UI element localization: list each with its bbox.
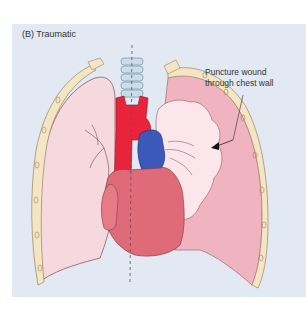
annotation-line-1: Puncture wound — [205, 67, 274, 78]
thorax-illustration — [0, 0, 306, 312]
superior-vena-cava — [138, 130, 165, 170]
puncture-annotation: Puncture wound through chest wall — [205, 67, 274, 88]
annotation-line-2: through chest wall — [205, 78, 274, 89]
panel-label: (B) Traumatic — [22, 29, 76, 39]
